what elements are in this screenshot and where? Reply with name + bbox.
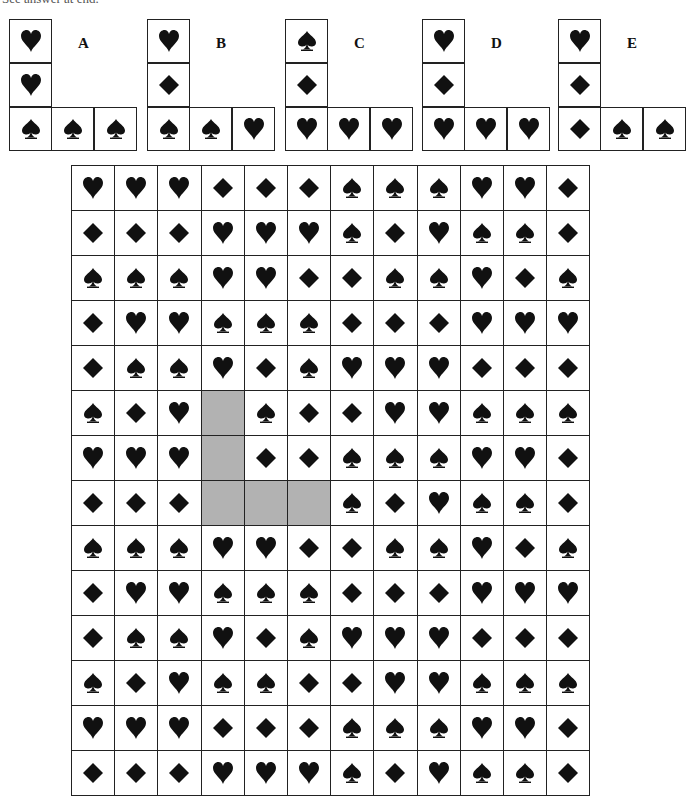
option-cell [285,107,328,151]
spade-icon [385,447,405,469]
spade-icon [472,492,492,514]
grid-cell [245,661,288,706]
spade-icon [558,537,578,559]
heart-icon [514,446,536,470]
diamond-icon [82,627,104,649]
heart-icon [255,266,277,290]
grid-cell [331,346,374,391]
grid-cell [72,166,115,211]
grid-cell [288,706,331,751]
heart-icon [433,29,455,53]
grid-cell [202,751,245,796]
grid-cell [202,571,245,616]
option-b[interactable]: B [147,19,277,153]
heart-icon [471,446,493,470]
grid-cell [288,211,331,256]
grid-cell [547,706,590,751]
diamond-icon [212,177,234,199]
diamond-icon [255,717,277,739]
heart-icon [569,29,591,53]
diamond-icon [298,717,320,739]
grid-cell [504,211,547,256]
diamond-icon [341,582,363,604]
heart-icon [471,266,493,290]
grid-cell [245,391,288,436]
grid-cell [547,481,590,526]
diamond-icon [298,402,320,424]
option-label: A [78,35,89,52]
heart-icon [82,716,104,740]
grid-cell [245,166,288,211]
diamond-icon [298,537,320,559]
grid-cell [374,346,417,391]
grid-cell [331,616,374,661]
option-a[interactable]: A [9,19,139,153]
heart-icon [212,626,234,650]
spade-icon [126,627,146,649]
spade-icon [385,537,405,559]
option-cell [147,107,190,151]
heart-icon [212,221,234,245]
heart-icon [82,176,104,200]
grid-cell [158,616,201,661]
diamond-icon [433,74,455,96]
grid-cell [158,436,201,481]
grid-cell [115,391,158,436]
spade-icon [299,627,319,649]
spade-icon [429,267,449,289]
grid-cell [547,346,590,391]
diamond-icon [82,582,104,604]
grid-cell [115,751,158,796]
grid-cell [418,301,461,346]
option-cell [9,107,52,151]
heart-icon [168,311,190,335]
grid-cell [158,391,201,436]
heart-icon [384,626,406,650]
heart-icon [255,536,277,560]
grid-cell [504,751,547,796]
diamond-icon [125,402,147,424]
heart-icon [341,626,363,650]
missing-cell [202,436,245,481]
grid-cell [115,436,158,481]
spade-icon [299,312,319,334]
spade-icon [342,222,362,244]
diamond-icon [514,357,536,379]
diamond-icon [557,447,579,469]
grid-cell [504,571,547,616]
heart-icon [20,73,42,97]
symbol-grid [71,165,590,796]
diamond-icon [384,762,406,784]
option-cell [558,19,601,63]
option-cell [285,63,328,107]
option-cell [232,107,275,151]
diamond-icon [212,717,234,739]
option-e[interactable]: E [558,19,688,153]
grid-cell [72,571,115,616]
grid-cell [245,571,288,616]
grid-cell [245,616,288,661]
grid-cell [504,661,547,706]
grid-cell [547,661,590,706]
grid-cell [288,661,331,706]
grid-cell [331,256,374,301]
missing-cell [288,481,331,526]
option-c[interactable]: C [285,19,415,153]
grid-cell [504,301,547,346]
spade-icon [515,492,535,514]
option-label: E [627,35,637,52]
grid-cell [418,481,461,526]
grid-cell [547,571,590,616]
spade-icon [126,267,146,289]
heart-icon [212,266,234,290]
grid-cell [331,391,374,436]
grid-cell [461,751,504,796]
grid-cell [504,616,547,661]
diamond-icon [384,492,406,514]
grid-cell [158,481,201,526]
option-d[interactable]: D [422,19,552,153]
missing-cell [202,391,245,436]
heart-icon [125,716,147,740]
grid-cell [547,211,590,256]
grid-cell [504,526,547,571]
